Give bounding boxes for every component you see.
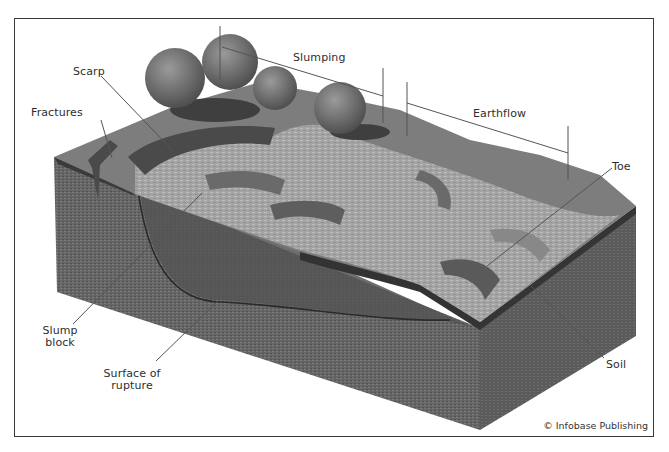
label-scarp: Scarp — [73, 66, 105, 78]
label-fractures: Fractures — [31, 107, 83, 119]
label-slumping: Slumping — [293, 52, 346, 64]
label-slump-block: Slump block — [38, 325, 82, 349]
label-earthflow: Earthflow — [473, 108, 526, 120]
label-slump-block-line2: block — [38, 337, 82, 349]
label-toe: Toe — [612, 161, 631, 173]
label-soil: Soil — [606, 359, 626, 371]
label-surface-rupture-line2: rupture — [102, 380, 162, 392]
label-surface-of-rupture: Surface of rupture — [102, 368, 162, 392]
copyright-credit: © Infobase Publishing — [543, 420, 648, 431]
